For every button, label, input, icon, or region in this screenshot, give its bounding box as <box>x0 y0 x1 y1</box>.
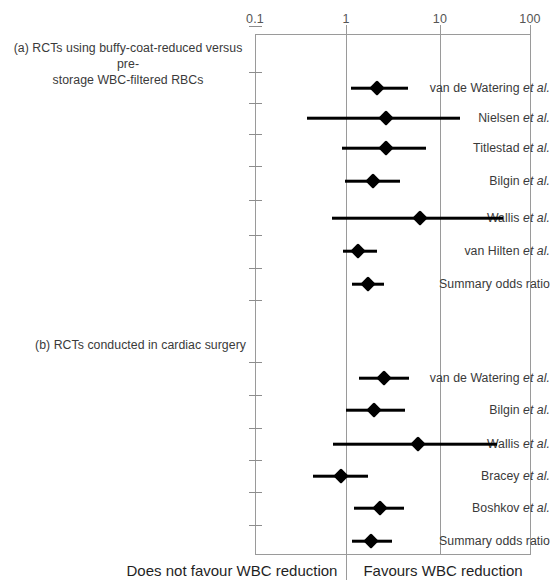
axis-tick <box>249 395 262 396</box>
et-al-suffix: et al. <box>523 403 550 417</box>
et-al-suffix: et al. <box>523 111 550 125</box>
row-label-b-0: van de Watering et al. <box>304 371 550 385</box>
axis-tick <box>249 103 262 104</box>
panel-b-heading-text: (b) RCTs conducted in cardiac surgery <box>35 338 246 352</box>
axis-tick-label-100: 100 <box>519 12 540 26</box>
study-name: van Hilten <box>464 244 519 258</box>
plot-frame-bottom <box>255 554 531 555</box>
axis-tick-label-10: 10 <box>433 12 447 26</box>
panel-a-heading-line2: storage WBC-filtered RBCs <box>53 73 204 87</box>
study-name: Boshkov <box>472 501 520 515</box>
row-label-a-6: Summary odds ratio <box>304 277 550 291</box>
axis-tick <box>249 235 262 236</box>
et-al-suffix: et al. <box>523 141 550 155</box>
axis-tick-label-1: 1 <box>342 12 349 26</box>
et-al-suffix: et al. <box>523 81 550 95</box>
axis-tick <box>249 362 262 363</box>
axis-tick <box>249 428 262 429</box>
row-label-a-2: Titlestad et al. <box>304 141 550 155</box>
panel-a-heading: (a) RCTs using buffy-coat-reduced versus… <box>10 40 246 88</box>
et-al-suffix: et al. <box>523 211 550 225</box>
axis-tick <box>249 134 262 135</box>
axis-tick <box>249 166 262 167</box>
axis-tick <box>249 525 262 526</box>
study-name: Summary odds ratio <box>439 534 550 548</box>
study-name: van de Watering <box>430 371 520 385</box>
axis-tick <box>249 26 262 27</box>
et-al-suffix: et al. <box>523 469 550 483</box>
plot-frame-left <box>255 34 256 555</box>
et-al-suffix: et al. <box>523 437 550 451</box>
row-label-b-5: Summary odds ratio <box>304 534 550 548</box>
foot-label-left: Does not favour WBC reduction <box>127 562 338 579</box>
et-al-suffix: et al. <box>523 174 550 188</box>
row-label-a-3: Bilgin et al. <box>304 174 550 188</box>
axis-tick <box>249 268 262 269</box>
row-label-b-1: Bilgin et al. <box>304 403 550 417</box>
foot-label-right: Favours WBC reduction <box>363 562 522 579</box>
study-name: Titlestad <box>473 141 519 155</box>
panel-a-heading-line1: (a) RCTs using buffy-coat-reduced versus… <box>14 41 243 71</box>
axis-tick-label-0-1: 0.1 <box>246 12 264 26</box>
row-label-a-5: van Hilten et al. <box>304 244 550 258</box>
study-name: van de Watering <box>430 81 520 95</box>
et-al-suffix: et al. <box>523 371 550 385</box>
forest-plot-figure: 0.1 1 10 100 (a) RCTs using buffy-coat-r… <box>0 0 550 588</box>
study-name: Bilgin <box>489 403 519 417</box>
study-name: Bilgin <box>489 174 519 188</box>
axis-tick <box>249 72 262 73</box>
panel-b-heading: (b) RCTs conducted in cardiac surgery <box>10 337 246 353</box>
et-al-suffix: et al. <box>523 501 550 515</box>
axis-tick <box>249 300 262 301</box>
axis-tick <box>249 200 262 201</box>
study-name: Nielsen <box>478 111 519 125</box>
et-al-suffix: et al. <box>523 244 550 258</box>
study-name: Bracey <box>481 469 520 483</box>
row-label-a-0: van de Watering et al. <box>304 81 550 95</box>
axis-tick <box>249 492 262 493</box>
axis-tick <box>249 460 262 461</box>
reference-line-or-1 <box>346 25 347 580</box>
plot-frame-top <box>255 34 531 35</box>
study-name: Summary odds ratio <box>439 277 550 291</box>
row-label-b-4: Boshkov et al. <box>304 501 550 515</box>
